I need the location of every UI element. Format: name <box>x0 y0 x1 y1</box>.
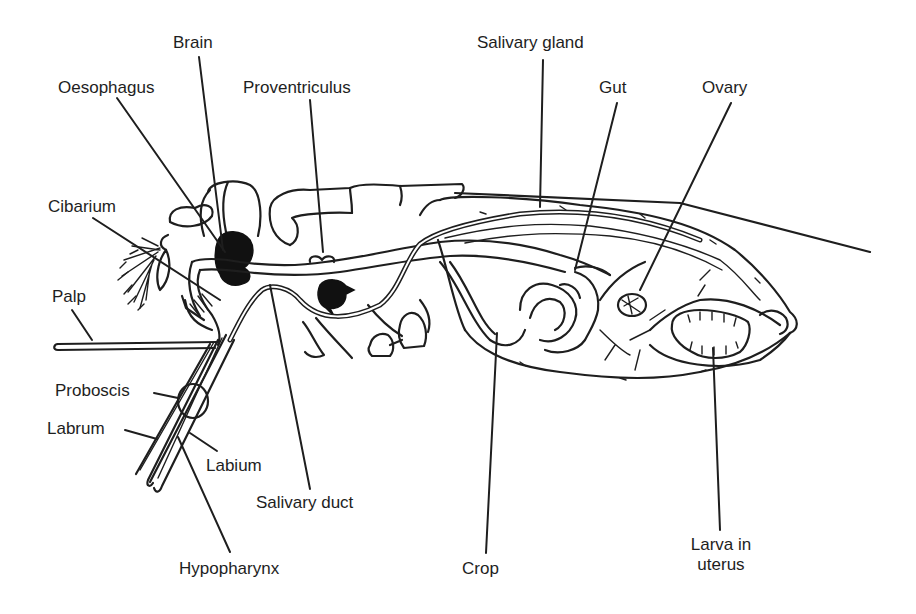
leader-line-crop <box>486 333 497 553</box>
label-salivary-gland: Salivary gland <box>477 33 584 53</box>
label-gut: Gut <box>599 78 626 98</box>
leader-line-ovary <box>640 103 731 290</box>
leader-line-salivary-duct <box>270 285 310 489</box>
label-hypopharynx: Hypopharynx <box>179 559 279 579</box>
leader-line-salivary-gland <box>540 60 543 207</box>
label-cibarium: Cibarium <box>48 197 116 217</box>
leader-line-gut <box>575 103 617 270</box>
label-salivary-duct: Salivary duct <box>256 493 353 513</box>
label-brain: Brain <box>173 33 213 53</box>
leader-line-labrum <box>125 430 157 439</box>
leader-line-larva-in-uterus <box>713 348 720 530</box>
larva-outline <box>672 310 750 358</box>
label-ovary: Ovary <box>702 78 747 98</box>
leader-line-oesophagus <box>117 98 225 252</box>
thoracic-ganglion <box>318 280 354 316</box>
label-proboscis: Proboscis <box>55 381 130 401</box>
label-proventriculus: Proventriculus <box>243 78 351 98</box>
label-crop: Crop <box>462 559 499 579</box>
leader-line-labium <box>190 433 217 451</box>
internal-organs <box>136 212 790 492</box>
label-labium: Labium <box>206 456 262 476</box>
leader-line-proventriculus <box>310 100 323 252</box>
label-oesophagus: Oesophagus <box>58 78 154 98</box>
label-labrum: Labrum <box>47 419 105 439</box>
leader-lines <box>72 57 731 553</box>
leader-line-proboscis <box>154 393 178 398</box>
label-palp: Palp <box>52 287 86 307</box>
leader-line-palp <box>72 310 92 340</box>
leader-line-hypopharynx <box>178 437 230 552</box>
label-larva-in-uterus: Larva inuterus <box>691 535 751 575</box>
